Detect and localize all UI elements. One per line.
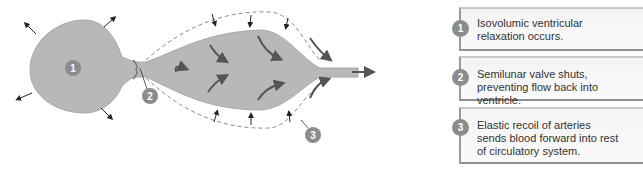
svg-text:3: 3 [310,130,316,141]
svg-text:2: 2 [147,91,153,102]
marker-3: 3 [305,127,321,143]
step-number-badge: 2 [452,69,469,86]
step-number-badge: 1 [452,20,469,37]
marker-2: 2 [142,88,158,104]
svg-text:1: 1 [70,63,76,74]
step-box-1: 1 Isovolumic ventricular relaxation occu… [459,7,643,51]
marker-1: 1 [65,60,81,76]
heart-artery-diagram: 1 2 3 [0,0,450,173]
step-text: Elastic recoil of arteries sends blood f… [477,119,622,158]
step-text: Semilunar valve shuts, preventing flow b… [477,68,639,107]
step-box-3: 3 Elastic recoil of arteries sends blood… [459,107,643,164]
step-number-badge: 3 [452,119,469,136]
step-box-2: 2 Semilunar valve shuts, preventing flow… [459,56,643,101]
step-text: Isovolumic ventricular relaxation occurs… [477,17,587,43]
